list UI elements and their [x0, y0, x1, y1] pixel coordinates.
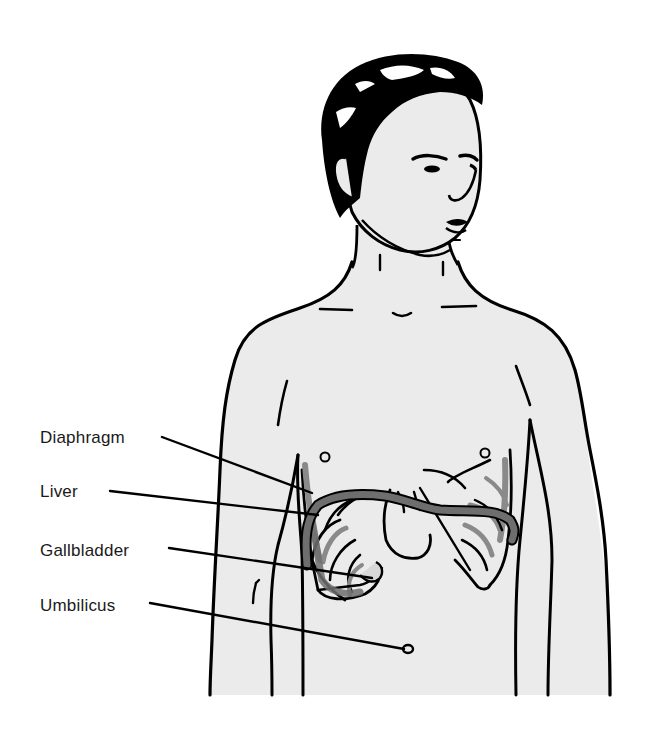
anatomy-illustration	[0, 0, 654, 738]
head	[321, 54, 483, 256]
label-umbilicus: Umbilicus	[40, 596, 115, 616]
label-gallbladder: Gallbladder	[40, 541, 129, 561]
label-liver: Liver	[40, 482, 78, 502]
label-diaphragm: Diaphragm	[40, 428, 125, 448]
